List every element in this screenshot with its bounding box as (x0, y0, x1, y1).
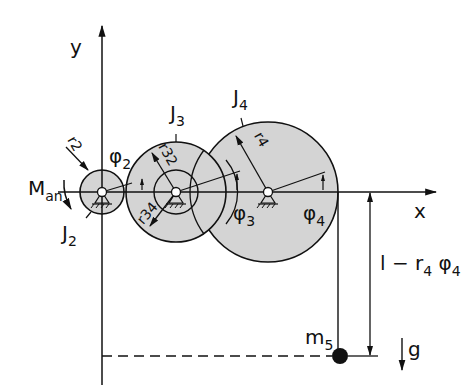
r2-label: r2 (64, 133, 85, 154)
torque-arrow-icon (64, 180, 71, 209)
phi2-label: φ2 (109, 144, 131, 172)
j4-label: J4 (231, 85, 248, 113)
y-axis-label: y (70, 35, 82, 59)
gear-train-diagram: y x J3 J4 J2 r2 r32 r34 r4 φ2 φ3 φ4 Man … (0, 0, 474, 389)
j3-label: J3 (168, 101, 185, 129)
dimension-label: l − r4 φ4 (380, 251, 461, 279)
mass-label: m5 (305, 325, 333, 353)
x-axis-label: x (414, 199, 426, 223)
torque-label: Man (28, 176, 63, 204)
j2-label: J2 (60, 221, 77, 249)
mass-m5-icon (332, 348, 348, 364)
gravity-label: g (408, 337, 421, 361)
